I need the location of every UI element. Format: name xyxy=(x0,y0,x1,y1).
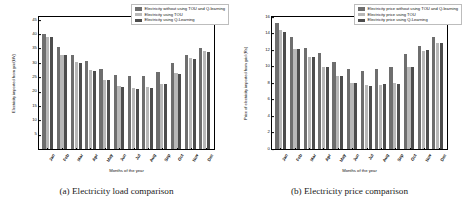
bar-group xyxy=(114,17,125,149)
bar-group xyxy=(57,17,68,149)
legend-load: Electricity without using TOU and Q-lear… xyxy=(131,4,229,25)
bar xyxy=(326,67,329,150)
legend-price: Electricity price without using TOU and … xyxy=(354,4,462,25)
bar xyxy=(322,67,325,150)
bar xyxy=(350,83,353,149)
legend-swatch-icon xyxy=(135,7,142,10)
bar xyxy=(57,47,60,149)
bar xyxy=(379,85,382,149)
bar-group xyxy=(142,17,153,149)
bar-group xyxy=(361,17,372,149)
legend-entry: Electricity price using TOU xyxy=(358,13,458,17)
x-axis-tick-label: Apr xyxy=(85,150,96,168)
figure-two-panel-bar-charts: Electricity imported from grid(kW) 51015… xyxy=(0,0,466,213)
bar xyxy=(60,55,63,149)
bar xyxy=(164,84,167,149)
legend-entry: Electricity price using Q-Learning xyxy=(358,18,458,22)
bar xyxy=(114,75,117,149)
bar xyxy=(432,37,435,149)
bar xyxy=(389,67,392,150)
bar xyxy=(332,62,335,149)
bar xyxy=(308,57,311,149)
bar-group xyxy=(347,17,358,149)
bar xyxy=(193,59,196,149)
bar xyxy=(171,63,174,149)
bar xyxy=(71,55,74,149)
legend-entry: Electricity without using TOU and Q-lear… xyxy=(135,7,225,11)
bar xyxy=(42,34,45,149)
legend-entry: Electricity using Q-Learning xyxy=(135,18,225,22)
axes-load: 51015202530354045 xyxy=(38,16,215,150)
y-axis-tick-label: 16 xyxy=(265,15,272,19)
bar xyxy=(79,63,82,149)
legend-swatch-icon xyxy=(135,19,142,22)
bar xyxy=(50,37,53,149)
bar xyxy=(407,67,410,149)
legend-swatch-icon xyxy=(358,19,365,22)
legend-swatch-icon xyxy=(135,13,142,16)
x-axis-tick-label: Jan xyxy=(275,150,286,168)
y-axis-tick-label: 6 xyxy=(267,97,272,101)
bar xyxy=(150,88,153,149)
bar xyxy=(347,69,350,149)
bar xyxy=(426,50,429,149)
bar xyxy=(340,76,343,149)
bar xyxy=(178,74,181,149)
y-axis-tick-label: 25 xyxy=(32,75,39,79)
axes-price: 0246810121416 xyxy=(271,16,448,150)
bar xyxy=(132,88,135,149)
bar xyxy=(365,85,368,149)
bar-group xyxy=(432,17,443,149)
y-axis-tick-label: 35 xyxy=(32,46,39,50)
bar-group xyxy=(332,17,343,149)
x-axis-tick-label: May xyxy=(99,150,110,168)
bar xyxy=(279,30,282,149)
y-axis-tick-label: 45 xyxy=(32,18,39,22)
x-axis-tick-label: Aug xyxy=(376,150,387,168)
x-axis-tick-label: Jun xyxy=(114,150,125,168)
bar xyxy=(160,84,163,149)
y-axis-tick-label: 14 xyxy=(265,31,272,35)
bar xyxy=(121,87,124,149)
y-axis-tick-label: 5 xyxy=(34,133,39,137)
bar xyxy=(189,58,192,149)
x-axis-tick-label: Jul xyxy=(128,150,139,168)
bar xyxy=(207,52,210,149)
y-axis-tick-label: 8 xyxy=(267,81,272,85)
bar xyxy=(128,76,131,149)
bar-group-container-price xyxy=(272,17,447,149)
bar xyxy=(46,37,49,149)
bar-group xyxy=(71,17,82,149)
bar xyxy=(185,55,188,149)
legend-swatch-icon xyxy=(358,13,365,16)
bar xyxy=(174,73,177,149)
x-axis-tick-label: May xyxy=(332,150,343,168)
x-axis-tick-label: Jul xyxy=(361,150,372,168)
y-axis-tick-label: 12 xyxy=(265,48,272,52)
x-axis-tick-label: Jan xyxy=(42,150,53,168)
bar xyxy=(85,61,88,149)
bar xyxy=(283,32,286,149)
bar xyxy=(293,49,296,149)
bar xyxy=(354,83,357,149)
y-axis-tick-label: 10 xyxy=(32,118,39,122)
legend-swatch-icon xyxy=(358,7,365,10)
bar xyxy=(290,37,293,149)
bar-group xyxy=(375,17,386,149)
x-axis-tick-label: Jun xyxy=(347,150,358,168)
bar-group xyxy=(275,17,286,149)
panel-electricity-price: Price of electricity imported from grid … xyxy=(233,0,466,213)
bar-group xyxy=(99,17,110,149)
bar xyxy=(440,43,443,149)
bar xyxy=(393,83,396,149)
legend-entry: Electricity using TOU xyxy=(135,13,225,17)
caption-load: (a) Electricity load comparison xyxy=(0,186,233,196)
bar-group xyxy=(318,17,329,149)
y-axis-tick-label: 4 xyxy=(267,114,272,118)
x-axis-tick-label: Apr xyxy=(318,150,329,168)
x-axis-tick-label: Mar xyxy=(71,150,82,168)
bar-group xyxy=(85,17,96,149)
y-axis-tick-label: 20 xyxy=(32,90,39,94)
bar xyxy=(99,69,102,149)
y-axis-tick-label: 15 xyxy=(32,104,39,108)
